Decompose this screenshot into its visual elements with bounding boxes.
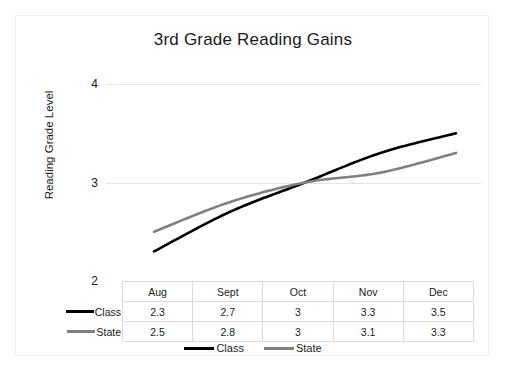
y-tick-label-4: 4 [91, 77, 98, 91]
table-row-label-state: State [41, 322, 123, 342]
class-line-swatch-icon [66, 310, 94, 313]
table-cell: 2.7 [193, 302, 263, 322]
table-cell: 2.5 [123, 322, 193, 342]
table-row-label-text: Class [95, 306, 121, 318]
table-cell: 2.3 [123, 302, 193, 322]
table-row-label-class: Class [41, 302, 123, 322]
table-cell: 3.5 [403, 302, 473, 322]
table-col-header-dec: Dec [403, 282, 473, 302]
table-row: Class 2.3 2.7 3 3.3 3.5 [41, 302, 474, 322]
table-col-header-nov: Nov [333, 282, 403, 302]
table-cell: 3 [263, 302, 333, 322]
plot-area: 4 3 2 [106, 54, 481, 266]
table-cell: 3 [263, 322, 333, 342]
table-col-header-aug: Aug [123, 282, 193, 302]
table-header-row: Aug Sept Oct Nov Dec [41, 282, 474, 302]
table-col-header-oct: Oct [263, 282, 333, 302]
table-cell: 3.1 [333, 322, 403, 342]
chart-screenshot: 3rd Grade Reading Gains Reading Grade Le… [0, 0, 506, 376]
y-axis-title: Reading Grade Level [43, 65, 55, 225]
table-col-header-sept: Sept [193, 282, 263, 302]
y-tick-label-3: 3 [91, 176, 98, 190]
legend-line-swatch-icon [184, 347, 214, 350]
legend-label: Class [216, 342, 244, 354]
legend-item-state: State [264, 342, 322, 354]
table-cell: 3.3 [333, 302, 403, 322]
series-lines [106, 54, 481, 266]
legend-line-swatch-icon [264, 347, 294, 350]
legend-item-class: Class [184, 342, 244, 354]
chart-title: 3rd Grade Reading Gains [16, 30, 490, 50]
table-row-label-text: State [96, 326, 121, 338]
legend-label: State [296, 342, 322, 354]
table-corner-cell [41, 282, 123, 302]
chart-legend: Class State [16, 342, 490, 354]
table-cell: 3.3 [403, 322, 473, 342]
table-cell: 2.8 [193, 322, 263, 342]
data-table: Aug Sept Oct Nov Dec Class 2.3 2.7 3 3.3… [41, 281, 474, 342]
line-series-state [154, 153, 456, 232]
table-row: State 2.5 2.8 3 3.1 3.3 [41, 322, 474, 342]
chart-frame: 3rd Grade Reading Gains Reading Grade Le… [15, 15, 489, 356]
line-series-class [154, 133, 456, 251]
state-line-swatch-icon [67, 330, 95, 333]
